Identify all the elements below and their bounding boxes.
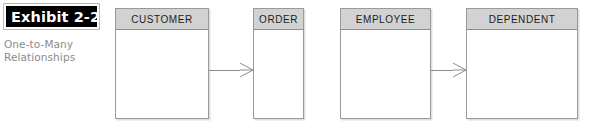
exhibit-figure: Exhibit 2-2 One-to-Many Relationships CU… (0, 0, 590, 131)
entity-header-order: ORDER (254, 9, 303, 30)
entity-title-employee: EMPLOYEE (356, 14, 415, 25)
exhibit-label-frame: Exhibit 2-2 (3, 3, 100, 30)
entity-header-dependent: DEPENDENT (467, 9, 577, 30)
relationship-connector-employee-dependent[interactable] (417, 56, 480, 84)
exhibit-number: Exhibit 2-2 (11, 9, 100, 25)
entity-title-dependent: DEPENDENT (489, 14, 556, 25)
entity-header-employee: EMPLOYEE (341, 9, 430, 30)
entity-box-dependent[interactable]: DEPENDENT (466, 8, 578, 119)
exhibit-label-bar: Exhibit 2-2 (6, 6, 97, 27)
entity-header-customer: CUSTOMER (116, 9, 208, 30)
entity-title-order: ORDER (259, 14, 298, 25)
exhibit-caption-line-2: Relationships (4, 51, 108, 64)
exhibit-caption-line-1: One-to-Many (4, 38, 108, 51)
relationship-connector-customer-order[interactable] (195, 56, 267, 84)
entity-body-dependent (467, 30, 577, 118)
entity-title-customer: CUSTOMER (131, 14, 192, 25)
exhibit-caption: One-to-Many Relationships (4, 38, 108, 64)
